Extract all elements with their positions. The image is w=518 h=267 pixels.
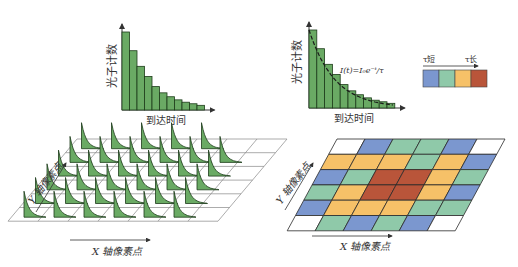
right-hist-ylabel: 光子计数 <box>290 40 304 84</box>
histogram-bar <box>130 51 138 110</box>
histogram-bar <box>145 76 153 110</box>
lifetime-colorbar <box>423 66 487 87</box>
decay-curve-glyph <box>220 136 242 162</box>
left-hist-ylabel: 光子计数 <box>105 44 119 88</box>
decay-curve-glyph <box>54 191 76 217</box>
decay-curve-glyph <box>174 191 196 217</box>
colorbar-swatch <box>423 70 439 87</box>
flim-diagram: 光子计数 到达时间 光子计数 到达时间 I(t)=I₀e⁻ᵗ/τ τ短 τ长 X… <box>0 0 518 267</box>
histogram-bar <box>182 102 190 110</box>
right-histogram <box>309 22 405 108</box>
histogram-bar <box>122 32 130 110</box>
histogram-bar <box>137 66 145 110</box>
colorbar-swatch <box>439 70 455 87</box>
decay-curve-glyph <box>114 191 136 217</box>
colorbar-swatch <box>471 70 487 87</box>
decay-curve-glyph <box>144 191 166 217</box>
left-histogram <box>122 24 215 110</box>
left-grid-xlabel: X 轴像素点 <box>91 246 143 257</box>
histogram-bar <box>371 100 379 108</box>
colorbar-swatch <box>455 70 471 87</box>
left-grid-ylabel: Y 轴像素点 <box>26 159 66 206</box>
decay-curve-glyph <box>197 164 219 190</box>
colorbar-long-label: τ长 <box>465 54 477 64</box>
left-hist-xlabel: 到达时间 <box>146 114 186 126</box>
decay-formula: I(t)=I₀e⁻ᵗ/τ <box>339 66 384 75</box>
histogram-bar <box>152 87 160 110</box>
histogram-bar <box>197 105 205 110</box>
histogram-bar <box>190 104 198 110</box>
decay-curve-glyph <box>209 150 231 176</box>
histogram-bar <box>160 93 168 110</box>
decay-curve-glyph <box>186 178 208 204</box>
histogram-bar <box>175 100 183 110</box>
histogram-bar <box>167 97 175 110</box>
histogram-bar <box>332 74 340 108</box>
right-hist-xlabel: 到达时间 <box>334 112 374 124</box>
right-lifetime-grid <box>285 139 505 236</box>
decay-curve-glyph <box>84 191 106 217</box>
colorbar-short-label: τ短 <box>423 54 435 64</box>
right-grid-xlabel: X 轴像素点 <box>339 241 391 252</box>
